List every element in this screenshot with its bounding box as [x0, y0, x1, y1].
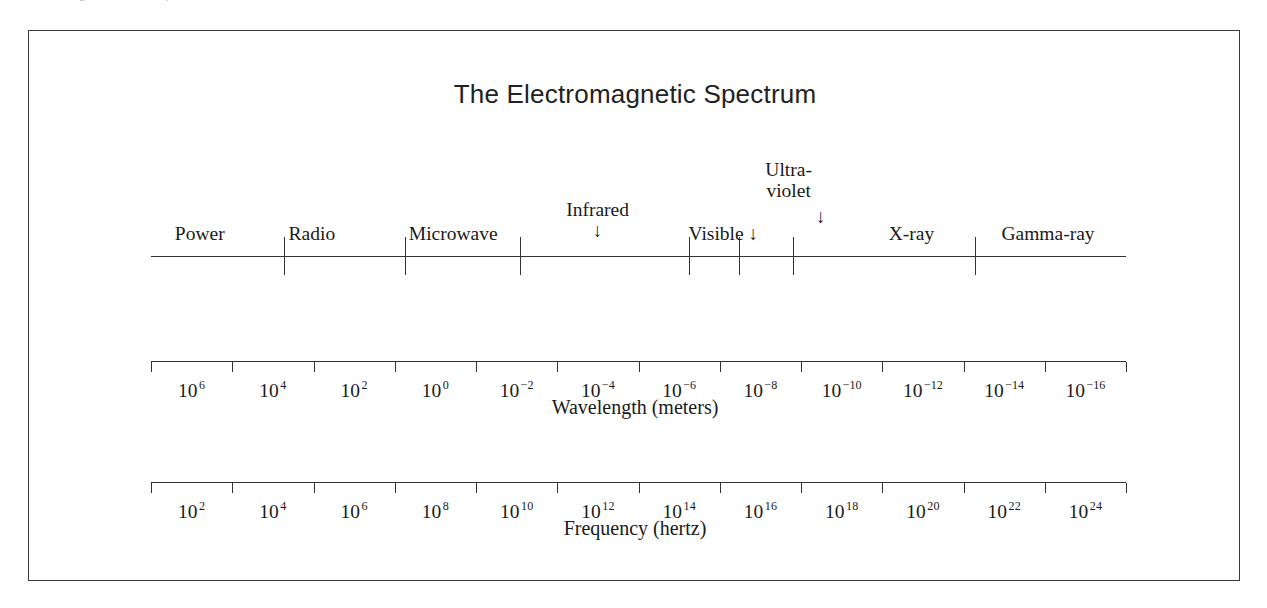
spectrum-band-radio: Radio [289, 223, 336, 245]
tick-exponent: 10 [521, 499, 533, 513]
tick-exponent: −10 [843, 378, 862, 392]
frequency-tick [1045, 483, 1046, 493]
tick-exponent: 2 [362, 378, 368, 392]
band-label-text: Microwave [409, 223, 498, 244]
tick-exponent: 0 [443, 378, 449, 392]
band-label-text: Infrared [566, 199, 629, 220]
tick-exponent: −8 [764, 378, 777, 392]
tick-exponent: 16 [765, 499, 777, 513]
frequency-tick [1126, 483, 1127, 493]
tick-exponent: −4 [602, 378, 615, 392]
spectrum-boundary-tick [975, 237, 976, 275]
wavelength-tick [151, 362, 152, 372]
wavelength-tick [964, 362, 965, 372]
wavelength-tick [1045, 362, 1046, 372]
down-arrow-icon: ↓ [816, 207, 826, 227]
spectrum-band-microwave: Microwave [409, 223, 498, 245]
wavelength-scale-line: 10610410210010−210−410−610−810−1010−1210… [151, 361, 1126, 362]
frequency-tick [476, 483, 477, 493]
frequency-axis-caption: Frequency (hertz) [29, 517, 1241, 540]
tick-exponent: 24 [1090, 499, 1102, 513]
figure-frame: The Electromagnetic Spectrum PowerRadioM… [28, 30, 1240, 581]
tick-exponent: −16 [1086, 378, 1105, 392]
tick-exponent: 6 [362, 499, 368, 513]
spectrum-band-ultraviolet: Ultra-violet↓ [765, 159, 812, 202]
tick-exponent: −12 [924, 378, 943, 392]
frequency-scale-line: 1021041061081010101210141016101810201022… [151, 482, 1126, 483]
spectrum-band-visible: Visible ↓ [689, 223, 759, 245]
tick-exponent: 6 [199, 378, 205, 392]
wavelength-tick [232, 362, 233, 372]
band-label-text: Gamma-ray [1001, 223, 1094, 244]
scan-caption-right: 1 [1245, 0, 1251, 1]
band-label-text: X-ray [889, 223, 934, 244]
tick-exponent: 4 [280, 378, 286, 392]
wavelength-tick [557, 362, 558, 372]
wavelength-tick [395, 362, 396, 372]
frequency-tick [801, 483, 802, 493]
spectrum-boundary-tick [793, 237, 794, 275]
spectrum-band-power: Power [175, 223, 225, 245]
tick-exponent: −2 [521, 378, 534, 392]
wavelength-tick [476, 362, 477, 372]
band-label-text: Visible [689, 223, 749, 244]
tick-exponent: 12 [602, 499, 614, 513]
spectrum-boundary-tick [520, 237, 521, 275]
tick-exponent: 2 [199, 499, 205, 513]
tick-exponent: 20 [927, 499, 939, 513]
band-label-line-2: violet [765, 180, 812, 201]
down-arrow-icon: ↓ [566, 221, 629, 241]
frequency-tick [720, 483, 721, 493]
wavelength-axis-caption: Wavelength (meters) [29, 396, 1241, 419]
tick-exponent: −6 [683, 378, 696, 392]
spectrum-band-x-ray: X-ray [889, 223, 934, 245]
tick-exponent: 14 [684, 499, 696, 513]
frequency-tick [151, 483, 152, 493]
spectrum-boundary-tick [405, 237, 406, 275]
down-arrow-icon: ↓ [749, 223, 759, 244]
wavelength-tick [639, 362, 640, 372]
tick-exponent: 18 [846, 499, 858, 513]
frequency-tick [964, 483, 965, 493]
frequency-tick [314, 483, 315, 493]
wavelength-tick [882, 362, 883, 372]
spectrum-band-axis: PowerRadioMicrowaveInfrared↓Visible ↓Ult… [29, 31, 1241, 582]
frequency-tick [639, 483, 640, 493]
wavelength-tick [314, 362, 315, 372]
band-label-line-1: Ultra- [765, 159, 812, 180]
spectrum-band-gamma-ray: Gamma-ray [1001, 223, 1094, 245]
spectrum-axis-line [151, 256, 1126, 257]
wavelength-tick [1126, 362, 1127, 372]
tick-exponent: 4 [280, 499, 286, 513]
frequency-tick [557, 483, 558, 493]
scan-caption-left: Electromagnetic radiation spectrum [28, 0, 207, 1]
band-label-text: Power [175, 223, 225, 244]
spectrum-boundary-tick [284, 237, 285, 275]
frequency-tick [882, 483, 883, 493]
tick-exponent: −14 [1005, 378, 1024, 392]
spectrum-band-infrared: Infrared↓ [566, 199, 629, 241]
frequency-tick [232, 483, 233, 493]
tick-exponent: 22 [1009, 499, 1021, 513]
wavelength-tick [720, 362, 721, 372]
band-label-text: Radio [289, 223, 336, 244]
wavelength-tick [801, 362, 802, 372]
scan-top-caption-strip: Electromagnetic radiation spectrum 1 [0, 0, 1267, 14]
frequency-tick [395, 483, 396, 493]
tick-exponent: 8 [443, 499, 449, 513]
